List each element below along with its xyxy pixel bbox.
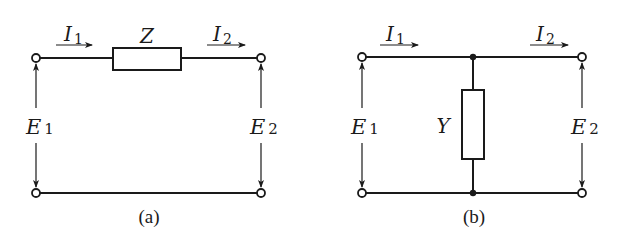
panel-a-series-impedance: Z I1 I2 E1 E2 (a) <box>25 22 278 228</box>
terminal-in-bottom <box>32 189 40 197</box>
impedance-label: Z <box>139 24 155 48</box>
terminal-in-top <box>358 53 366 61</box>
terminal-in-top <box>32 54 40 62</box>
panel-b-shunt-admittance: Y I1 I2 E1 E2 (b) <box>350 22 599 228</box>
voltage-label-e2: E2 <box>570 115 599 139</box>
terminal-in-bottom <box>358 189 366 197</box>
terminal-out-bottom <box>578 189 586 197</box>
current-label-i1: I1 <box>385 22 405 47</box>
junction-bottom <box>470 190 476 196</box>
voltage-label-e2: E2 <box>249 115 278 139</box>
current-label-i2: I2 <box>212 22 232 47</box>
admittance-y-box <box>462 90 484 159</box>
current-label-i2: I2 <box>535 22 555 47</box>
current-label-i1: I1 <box>63 22 83 47</box>
voltage-label-e1: E1 <box>350 115 379 139</box>
terminal-out-bottom <box>257 189 265 197</box>
admittance-label: Y <box>436 114 451 138</box>
terminal-out-top <box>578 53 586 61</box>
impedance-z-box <box>113 48 181 70</box>
junction-top <box>470 54 476 60</box>
terminal-out-top <box>257 54 265 62</box>
circuit-diagram: Z I1 I2 E1 E2 (a) <box>0 0 624 248</box>
voltage-label-e1: E1 <box>25 115 54 139</box>
caption-b: (b) <box>463 206 485 228</box>
caption-a: (a) <box>138 206 159 228</box>
